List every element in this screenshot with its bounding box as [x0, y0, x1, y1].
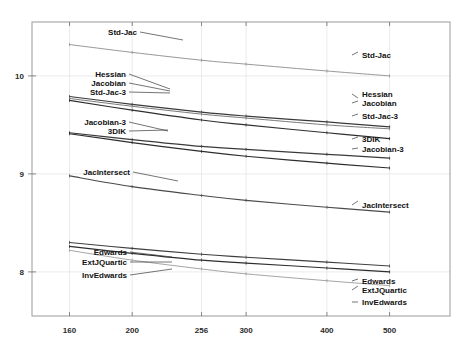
y-tick-label: 10 [15, 72, 24, 81]
series-line-jacobian-3 [70, 134, 390, 168]
series-label-hessian: Hessian [362, 90, 393, 99]
series-line-jacintersect [70, 176, 390, 212]
leader-line [140, 32, 183, 40]
series-label-extjquartic: ExtJQuartic [82, 258, 127, 267]
x-tick-label: 160 [63, 326, 77, 335]
y-tick-label: 8 [20, 268, 25, 277]
leader-line [352, 52, 358, 55]
line-chart: Std-JacHessianJacobianStd-Jac-3Jacobian-… [0, 0, 465, 351]
leader-line [130, 252, 172, 257]
series-label-std-jac-3: Std-Jac-3 [90, 88, 127, 97]
series-label-std-jac: Std-Jac [362, 51, 391, 60]
leader-line [352, 114, 358, 116]
leader-line [352, 201, 358, 205]
series-label-jacobian: Jacobian [91, 79, 126, 88]
series-label-jacobian-3: Jacobian-3 [362, 145, 404, 154]
series-label-hessian: Hessian [95, 70, 126, 79]
leader-line [129, 92, 170, 93]
series-labels: Std-JacHessianJacobianStd-Jac-3Jacobian-… [82, 28, 409, 307]
x-tick-label: 500 [383, 326, 397, 335]
series-label-invedwards: InvEdwards [82, 271, 127, 280]
series-label-std-jac: Std-Jac [108, 28, 137, 37]
axis-tick-labels: 1602002563004005001098 [15, 72, 397, 335]
leader-line [352, 148, 358, 149]
x-tick-label: 400 [320, 326, 334, 335]
x-tick-label: 200 [126, 326, 140, 335]
series-label-jacintersect: JacIntersect [83, 168, 130, 177]
leader-line [352, 101, 358, 103]
series-label-jacobian: Jacobian [362, 99, 397, 108]
leader-line [352, 137, 358, 139]
y-tick-label: 9 [20, 170, 25, 179]
leader-line [352, 279, 358, 281]
series-label-extjquartic: ExtJQuartic [362, 286, 407, 295]
x-tick-label: 256 [195, 326, 209, 335]
x-tick-label: 300 [239, 326, 253, 335]
series-label-3dik: 3DIK [362, 135, 380, 144]
series-label-3dik: 3DIK [108, 127, 126, 136]
leader-line [129, 122, 168, 131]
series-label-jacintersect: JacIntersect [362, 201, 409, 210]
leader-line [352, 286, 358, 290]
chart-container: Std-JacHessianJacobianStd-Jac-3Jacobian-… [0, 0, 465, 351]
series-label-jacobian-3: Jacobian-3 [84, 118, 126, 127]
leader-line [129, 130, 168, 131]
series-label-edwards: Edwards [94, 248, 128, 257]
leader-line [133, 172, 178, 181]
leader-line [352, 94, 358, 98]
series-label-invedwards: InvEdwards [362, 298, 407, 307]
series-label-edwards: Edwards [362, 277, 396, 286]
series-label-std-jac-3: Std-Jac-3 [362, 112, 399, 121]
